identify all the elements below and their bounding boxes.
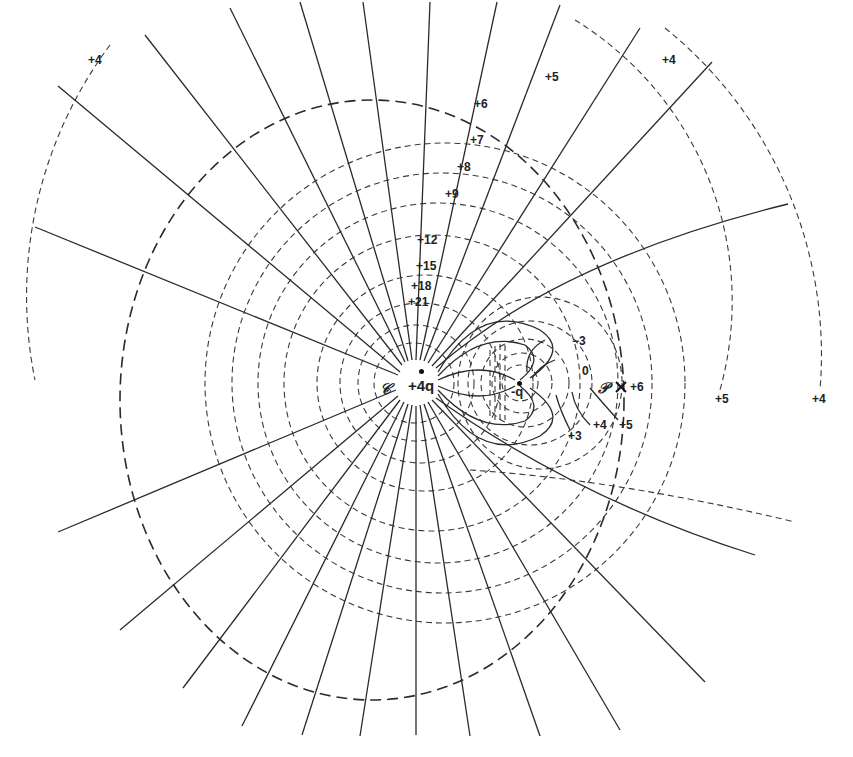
label-p4: +4 (593, 419, 607, 431)
label-p6: +6 (630, 381, 644, 393)
point-p-label: 𝒫 (598, 381, 609, 396)
label-12: +12 (417, 234, 437, 246)
label-right-4: +4 (812, 393, 826, 405)
field-diagram: +4q -q 𝒞 𝒫 +4 +5 +4 +6 +7 +8 +9 +12 +15 … (0, 0, 853, 757)
negative-charge-label: -q (511, 385, 523, 398)
label-6: +6 (474, 98, 488, 110)
label-21: +21 (408, 296, 428, 308)
label-zero: 0 (582, 365, 589, 377)
label-8: +8 (457, 161, 471, 173)
label-p5: +5 (619, 419, 633, 431)
label-neg3: −3 (572, 335, 586, 347)
positive-charge-dot (419, 369, 424, 374)
label-top-left-4: +4 (88, 54, 102, 66)
positive-charge-label: +4q (408, 378, 434, 393)
point-c-label: 𝒞 (380, 382, 391, 397)
label-right-5: +5 (715, 393, 729, 405)
label-15: +15 (416, 260, 436, 272)
field-lines (35, 2, 788, 736)
label-p3: +3 (568, 430, 582, 442)
label-top-mid-5: +5 (545, 71, 559, 83)
label-7: +7 (470, 134, 484, 146)
label-top-right-4: +4 (662, 54, 676, 66)
label-9: +9 (445, 188, 459, 200)
label-18: +18 (411, 280, 431, 292)
